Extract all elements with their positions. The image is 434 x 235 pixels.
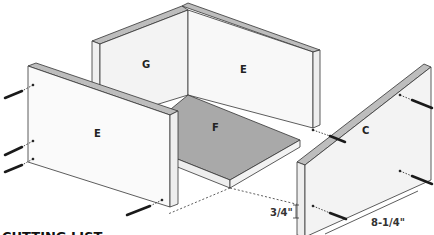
assembly-diagram: 3/4" 8-1/4" G E E F C CUTTING LIST <box>0 0 434 235</box>
section-heading: CUTTING LIST <box>2 229 103 235</box>
part-label-e-front: E <box>94 128 101 139</box>
dimension-depth-label: 8-1/4" <box>371 217 405 228</box>
part-label-f: F <box>212 122 219 133</box>
part-label-c: C <box>362 125 369 136</box>
part-label-g: G <box>142 59 150 70</box>
dimension-thickness-label: 3/4" <box>270 207 293 218</box>
part-label-e-back: E <box>240 64 247 75</box>
